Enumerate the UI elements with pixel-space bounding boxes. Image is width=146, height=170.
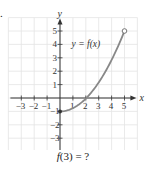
open-endpoint-icon (122, 29, 127, 34)
x-tick-label: −3 (16, 101, 26, 111)
y-tick-label: −3 (50, 133, 60, 143)
function-label: y = f(x) (71, 39, 101, 50)
y-tick-label: 5 (53, 26, 58, 36)
x-axis-label: x (138, 92, 144, 103)
y-tick-label: 3 (53, 53, 58, 63)
x-tick-label: 5 (122, 101, 127, 111)
function-graph: xy−3−2−112345−3−2−112345y = f(x) (0, 0, 146, 150)
question-caption: f(3) = ? (0, 150, 146, 162)
caption-argument: (3) = ? (60, 150, 89, 162)
y-tick-label: 1 (53, 80, 58, 90)
problem-number-mark: . (0, 7, 3, 19)
y-tick-label: 2 (53, 66, 58, 76)
x-tick-label: 2 (83, 101, 88, 111)
y-axis-label: y (57, 8, 63, 19)
closed-endpoint-icon (58, 109, 62, 113)
y-tick-label: −2 (50, 120, 60, 130)
x-axis-arrow-icon (130, 96, 136, 101)
y-axis-arrow-icon (58, 19, 63, 25)
graph-figure: . xy−3−2−112345−3−2−112345y = f(x) f(3) … (0, 0, 146, 170)
x-tick-label: −2 (29, 101, 39, 111)
x-tick-label: 4 (109, 101, 114, 111)
y-tick-label: 4 (53, 39, 58, 49)
x-tick-label: 3 (96, 101, 101, 111)
